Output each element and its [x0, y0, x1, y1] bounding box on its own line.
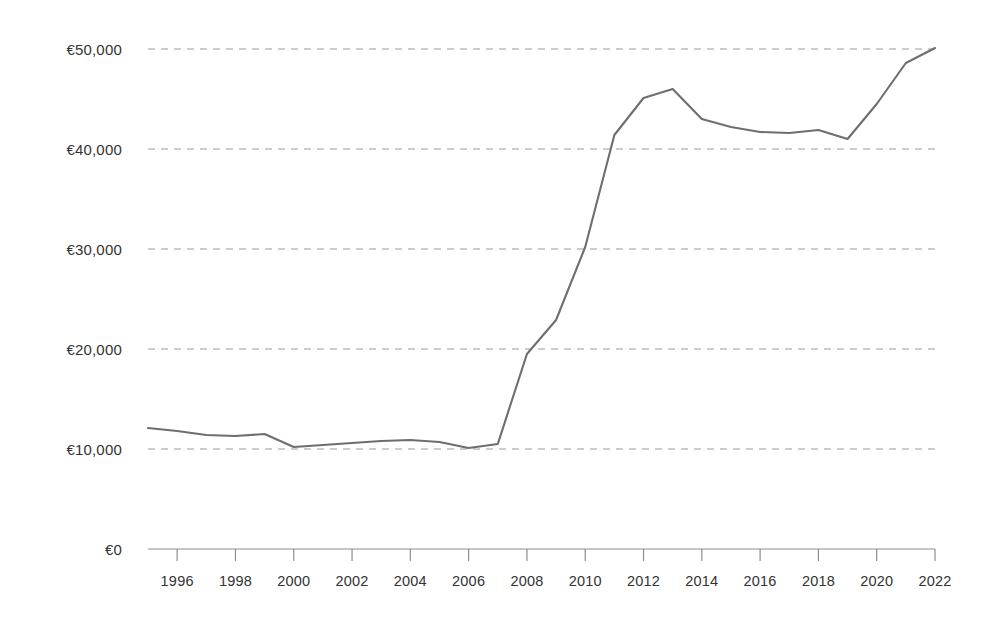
x-axis-tick-label: 2010 [569, 573, 602, 589]
x-axis-tick-label: 2002 [336, 573, 369, 589]
x-axis-tick-label: 2012 [627, 573, 660, 589]
x-axis-tick-label: 2022 [918, 573, 951, 589]
x-axis-tick-label: 2006 [452, 573, 485, 589]
x-axis-tick-label: 2004 [394, 573, 427, 589]
x-axis-tick-label: 2018 [802, 573, 835, 589]
x-axis-tick-label: 2008 [510, 573, 543, 589]
x-axis-tick-labels: 1996199820002002200420062008201020122014… [0, 0, 993, 632]
x-axis-tick-label: 1996 [161, 573, 194, 589]
x-axis-tick-label: 1998 [219, 573, 252, 589]
x-axis-tick-label: 2016 [744, 573, 777, 589]
line-chart: €0€10,000€20,000€30,000€40,000€50,000 19… [0, 0, 993, 632]
x-axis-tick-label: 2014 [685, 573, 718, 589]
x-axis-tick-label: 2000 [277, 573, 310, 589]
x-axis-tick-label: 2020 [860, 573, 893, 589]
